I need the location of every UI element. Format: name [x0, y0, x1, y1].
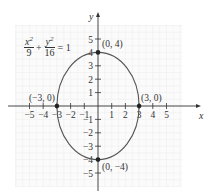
- x-axis-arrow-icon: [196, 104, 201, 108]
- x-tick-label: 5: [164, 110, 169, 120]
- point-label: (0, −4): [102, 162, 128, 173]
- y-denominator: 16: [44, 48, 56, 58]
- plus-sign: +: [36, 42, 42, 53]
- x-tick-label: 1: [109, 110, 114, 120]
- y-tick-label: −3: [83, 142, 93, 152]
- x-axis-label: x: [198, 110, 204, 121]
- x-fraction: x2 9: [24, 36, 34, 58]
- point-marker: [55, 104, 60, 109]
- point-marker: [137, 104, 142, 109]
- y-tick-label: 5: [88, 35, 93, 45]
- x-tick-label: −5: [24, 110, 34, 120]
- x-tick-label: −4: [38, 110, 48, 120]
- ellipse-plot: xy−5−4−3−2−112345−5−4−3−2−112345(0, 4)(0…: [0, 0, 207, 196]
- y-fraction: y2 16: [44, 36, 56, 58]
- point-label: (3, 0): [141, 93, 162, 104]
- equals-one: = 1: [58, 42, 71, 53]
- y-axis-arrow-icon: [96, 12, 100, 17]
- point-marker: [96, 157, 101, 162]
- x-tick-label: 4: [150, 110, 155, 120]
- point-marker: [96, 50, 101, 55]
- y-tick-label: −5: [83, 169, 93, 179]
- x-tick-label: −2: [66, 110, 76, 120]
- y-tick-label: −1: [83, 115, 93, 125]
- x-exponent: 2: [29, 35, 33, 43]
- y-tick-label: 3: [88, 61, 93, 71]
- x-tick-label: 2: [123, 110, 128, 120]
- y-tick-label: 2: [88, 75, 93, 85]
- y-tick-label: 1: [88, 88, 93, 98]
- y-tick-label: −2: [83, 128, 93, 138]
- point-label: (0, 4): [102, 39, 123, 50]
- y-exponent: 2: [50, 35, 54, 43]
- y-axis-label: y: [88, 11, 94, 22]
- point-label: (−3, 0): [29, 93, 55, 104]
- equation-label: x2 9 + y2 16 = 1: [24, 36, 71, 58]
- x-denominator: 9: [25, 48, 32, 58]
